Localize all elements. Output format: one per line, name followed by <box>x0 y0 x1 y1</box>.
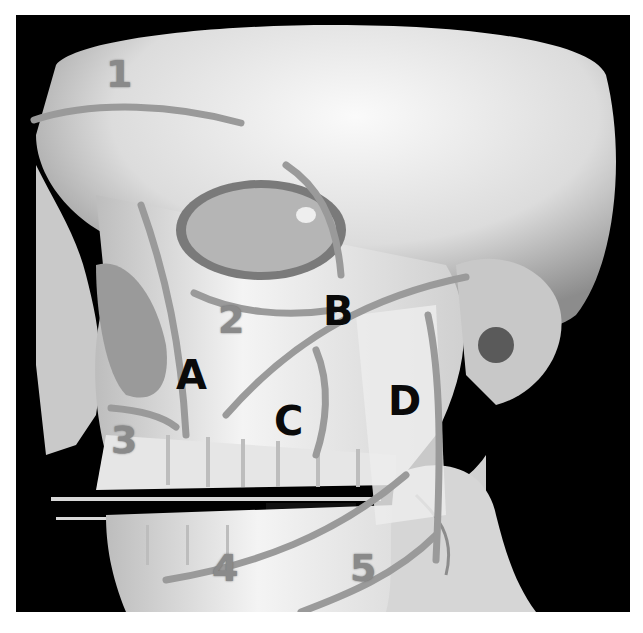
annotation-label-1: 1 <box>106 55 132 93</box>
annotation-label-3: 3 <box>111 421 137 459</box>
annotation-label-a: A <box>176 355 207 395</box>
annotation-label-c: C <box>274 401 303 441</box>
faded-caption <box>290 614 630 630</box>
skull-ct-image: 1 2 3 4 5 A B C D <box>16 15 630 612</box>
annotation-label-b: B <box>323 291 354 331</box>
annotation-label-d: D <box>388 381 421 421</box>
annotation-label-5: 5 <box>350 549 376 587</box>
annotation-label-2: 2 <box>218 301 244 339</box>
annotation-label-4: 4 <box>212 549 238 587</box>
